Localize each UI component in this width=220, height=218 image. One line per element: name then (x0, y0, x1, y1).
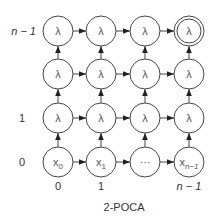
node-label: λ (55, 112, 61, 124)
state-node: x0 (43, 147, 73, 177)
state-node: λ (130, 16, 160, 46)
node-label: λ (186, 68, 192, 80)
state-node: λ (174, 59, 204, 89)
state-node: λ (43, 59, 73, 89)
diagram-caption: 2-POCA (104, 201, 146, 213)
column-label: n − 1 (177, 180, 202, 192)
node-label: λ (98, 25, 104, 37)
node-label: λ (142, 112, 148, 124)
state-node: λ (86, 16, 116, 46)
node-label: ··· (140, 156, 151, 168)
node-label: λ (98, 112, 104, 124)
column-label: 0 (55, 180, 61, 192)
node-label: λ (55, 68, 61, 80)
node-label: λ (186, 25, 192, 37)
node-label: λ (142, 25, 148, 37)
node-label: λ (142, 68, 148, 80)
node-label: λ (98, 68, 104, 80)
state-node: x1 (86, 147, 116, 177)
state-node: λ (130, 103, 160, 133)
accepting-state-node: λ (174, 16, 204, 46)
state-node: λ (130, 59, 160, 89)
state-node: λ (86, 103, 116, 133)
row-label: 1 (19, 112, 25, 124)
state-node: xn−1 (174, 147, 204, 177)
state-node: λ (43, 16, 73, 46)
poca-diagram: x0x1···xn−1λλλλλλλλλλλλ 01n − 101n − 1 2… (0, 0, 220, 218)
row-label: 0 (19, 156, 25, 168)
column-label: 1 (98, 180, 104, 192)
row-label: n − 1 (11, 25, 36, 37)
state-node: λ (43, 103, 73, 133)
node-label: λ (55, 25, 61, 37)
node-label: λ (186, 112, 192, 124)
state-node: λ (86, 59, 116, 89)
state-node: ··· (130, 147, 160, 177)
state-node: λ (174, 103, 204, 133)
